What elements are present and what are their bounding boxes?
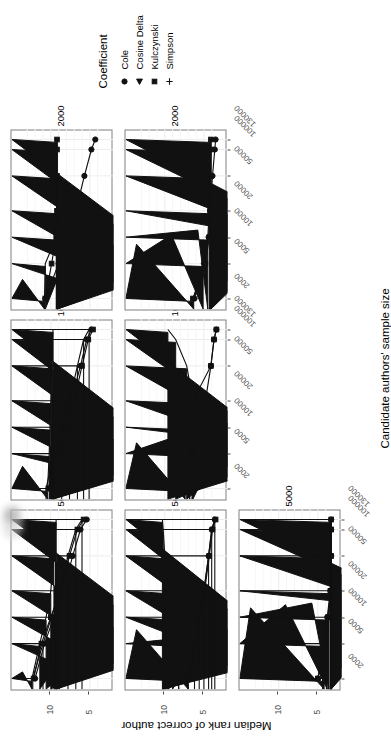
legend: Coefficient ColeCosine DeltaKulczynskiSi… (96, 15, 176, 88)
x-axis-tick-mark (227, 365, 230, 366)
x-axis-tick-mark (227, 453, 230, 454)
x-axis-tick-mark (227, 298, 230, 299)
y-axis-tick-label: 5 (311, 4, 321, 714)
y-axis-tick-label: 10 (158, 4, 168, 714)
x-axis-tick-label: 50000 (232, 144, 254, 166)
facet-panel (124, 319, 226, 500)
plus-marker (162, 74, 176, 88)
x-axis-tick-label: 20000 (232, 369, 254, 391)
legend-item[interactable]: Cole (116, 15, 131, 88)
x-axis-title: Candidate authors' sample size (378, 0, 390, 736)
facet-panel (124, 129, 226, 310)
facet-strip-label: 5000 (282, 485, 293, 506)
x-axis-tick-mark (341, 617, 344, 618)
x-axis-tick-label: 2000 (232, 271, 251, 290)
y-axis-tick-mark (202, 691, 203, 694)
triangle-marker (132, 74, 146, 88)
figure-canvas: Median rank of correct author Candidate … (0, 0, 391, 736)
x-axis-tick-mark (227, 329, 230, 330)
x-axis-tick-label: 20000 (346, 559, 368, 581)
x-axis-tick-mark (227, 210, 230, 211)
legend-item[interactable]: Kulczynski (146, 15, 161, 88)
legend-item[interactable]: Simpson (161, 15, 176, 88)
x-axis-tick-mark (227, 263, 230, 264)
x-axis-tick-mark (341, 678, 344, 679)
legend-item-label: Kulczynski (148, 24, 159, 69)
y-axis-tick-mark (49, 691, 50, 694)
x-axis-tick-label: 50000 (346, 524, 368, 546)
x-axis-tick-mark (341, 643, 344, 644)
legend-item-label: Cole (118, 49, 129, 69)
x-axis-tick-label: 2000 (346, 651, 365, 670)
x-axis-tick-label: 5000 (232, 236, 251, 255)
legend-items: ColeCosine DeltaKulczynskiSimpson (116, 15, 176, 88)
x-axis-tick-mark (227, 427, 230, 428)
x-axis-tick-mark (227, 237, 230, 238)
scan-smudge-2 (4, 508, 18, 522)
y-axis-tick-label: 10 (44, 4, 54, 714)
rotated-figure-wrapper: Median rank of correct author Candidate … (0, 0, 391, 736)
x-axis-tick-label: 10000 (232, 395, 254, 417)
x-axis-tick-mark (341, 590, 344, 591)
x-axis-tick-mark (341, 555, 344, 556)
circle-marker (117, 74, 131, 88)
y-axis-tick-mark (316, 691, 317, 694)
facet-panel (10, 319, 112, 500)
y-axis-tick-mark (277, 691, 278, 694)
facet-panel (10, 129, 112, 310)
facet-strip-label: 2000 (54, 105, 65, 126)
faceted-line-chart: Median rank of correct author Candidate … (0, 0, 391, 736)
y-axis-tick-label: 5 (83, 4, 93, 714)
x-axis-tick-mark (227, 400, 230, 401)
y-axis-tick-mark (88, 691, 89, 694)
x-axis-tick-label: 2000 (232, 461, 251, 480)
x-axis-tick-mark (227, 149, 230, 150)
x-axis-tick-mark (227, 175, 230, 176)
x-axis-tick-mark (341, 519, 344, 520)
x-axis-tick-label: 20000 (232, 179, 254, 201)
x-axis-tick-mark (341, 529, 344, 530)
y-axis-tick-label: 10 (272, 4, 282, 714)
facet-panel (124, 509, 226, 690)
facet-panel (10, 509, 112, 690)
legend-title: Coefficient (96, 15, 108, 88)
x-axis-tick-label: 10000 (346, 585, 368, 607)
y-axis-tick-label: 5 (197, 4, 207, 714)
x-axis-tick-label: 5000 (232, 426, 251, 445)
x-axis-tick-mark (227, 488, 230, 489)
square-marker (147, 74, 161, 88)
x-axis-tick-label: 50000 (232, 334, 254, 356)
facet-strip-label: 2000 (168, 105, 179, 126)
legend-item[interactable]: Cosine Delta (131, 15, 146, 88)
legend-item-label: Cosine Delta (133, 15, 144, 69)
x-axis-tick-mark (227, 139, 230, 140)
facet-panel (238, 509, 340, 690)
x-axis-tick-mark (227, 339, 230, 340)
x-axis-tick-label: 5000 (346, 616, 365, 635)
y-axis-tick-mark (163, 691, 164, 694)
legend-item-label: Simpson (163, 32, 174, 69)
y-axis-title: Median rank of correct author (0, 718, 391, 734)
x-axis-tick-label: 10000 (232, 205, 254, 227)
